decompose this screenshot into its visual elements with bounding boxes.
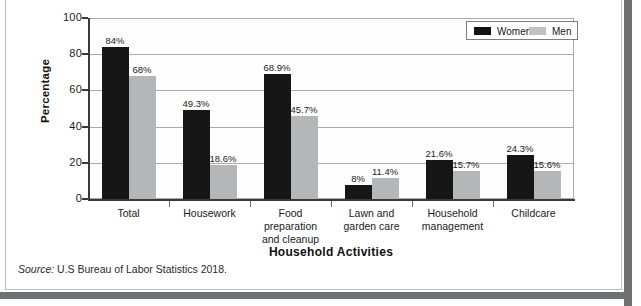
legend-item-women[interactable]: Women bbox=[474, 25, 531, 37]
bar-value-label: 21.6% bbox=[415, 148, 464, 159]
bar-men bbox=[291, 116, 318, 199]
gridline bbox=[89, 163, 573, 164]
y-tick-mark bbox=[82, 53, 88, 55]
bar-chart: 020406080100 Percentage Household Activi… bbox=[0, 0, 624, 290]
y-tick-label-wrap: 60 bbox=[48, 83, 82, 95]
legend-label-women: Women bbox=[497, 26, 531, 37]
y-tick-label: 20 bbox=[56, 156, 82, 168]
plot-area bbox=[88, 18, 574, 199]
category-label: Total bbox=[88, 207, 169, 220]
legend-swatch-men-icon bbox=[529, 27, 546, 35]
bar-value-label: 15.6% bbox=[523, 159, 572, 170]
y-tick-mark bbox=[82, 162, 88, 164]
bar-value-label: 68% bbox=[118, 64, 167, 75]
bar-value-label: 84% bbox=[91, 35, 140, 46]
legend-item-men[interactable]: Men bbox=[529, 25, 571, 37]
y-tick-label: 40 bbox=[56, 120, 82, 132]
y-tick-label-wrap: 80 bbox=[48, 47, 82, 59]
y-tick-mark bbox=[82, 126, 88, 128]
y-tick-label-wrap: 20 bbox=[48, 156, 82, 168]
y-tick-label: 100 bbox=[56, 11, 82, 23]
y-tick-label-wrap: 100 bbox=[48, 11, 82, 23]
bar-women bbox=[345, 185, 372, 199]
y-tick-label-wrap: 40 bbox=[48, 120, 82, 132]
figure-page: 020406080100 Percentage Household Activi… bbox=[0, 0, 641, 306]
gridline bbox=[89, 18, 573, 19]
y-tick-label: 80 bbox=[56, 47, 82, 59]
bar-men bbox=[453, 171, 480, 199]
source-text: U.S Bureau of Labor Statistics 2018. bbox=[57, 263, 227, 275]
x-axis-title: Household Activities bbox=[88, 245, 574, 259]
y-tick-label: 0 bbox=[56, 192, 82, 204]
category-label: Housework bbox=[169, 207, 250, 220]
source-note: Source: U.S Bureau of Labor Statistics 2… bbox=[18, 263, 227, 275]
category-label: Childcare bbox=[493, 207, 574, 220]
y-tick-mark bbox=[82, 89, 88, 91]
bar-value-label: 45.7% bbox=[280, 104, 329, 115]
y-tick-label-wrap: 0 bbox=[48, 192, 82, 204]
bar-value-label: 11.4% bbox=[361, 166, 410, 177]
page-frame-bottom-band bbox=[0, 292, 632, 299]
y-tick-mark bbox=[82, 198, 88, 200]
legend-label-men: Men bbox=[552, 26, 571, 37]
source-prefix: Source: bbox=[18, 263, 54, 275]
y-tick-label: 60 bbox=[56, 83, 82, 95]
category-label: Food preparation and cleanup bbox=[250, 207, 331, 246]
bar-women bbox=[264, 74, 291, 199]
y-tick-mark bbox=[82, 17, 88, 19]
gridline bbox=[89, 127, 573, 128]
bar-value-label: 18.6% bbox=[199, 153, 248, 164]
legend-swatch-women-icon bbox=[474, 27, 491, 35]
bar-men bbox=[534, 171, 561, 199]
page-frame-right-band bbox=[624, 0, 632, 306]
bar-men bbox=[210, 165, 237, 199]
bar-value-label: 49.3% bbox=[172, 98, 221, 109]
category-label: Lawn and garden care bbox=[331, 207, 412, 233]
bar-value-label: 15.7% bbox=[442, 159, 491, 170]
gridline bbox=[89, 90, 573, 91]
bar-men bbox=[129, 76, 156, 199]
bar-value-label: 68.9% bbox=[253, 62, 302, 73]
chart-legend[interactable]: Women Men bbox=[466, 21, 578, 40]
category-label: Household management bbox=[412, 207, 493, 233]
y-axis-title: Percentage bbox=[39, 36, 51, 146]
bar-value-label: 24.3% bbox=[496, 143, 545, 154]
gridline bbox=[89, 54, 573, 55]
